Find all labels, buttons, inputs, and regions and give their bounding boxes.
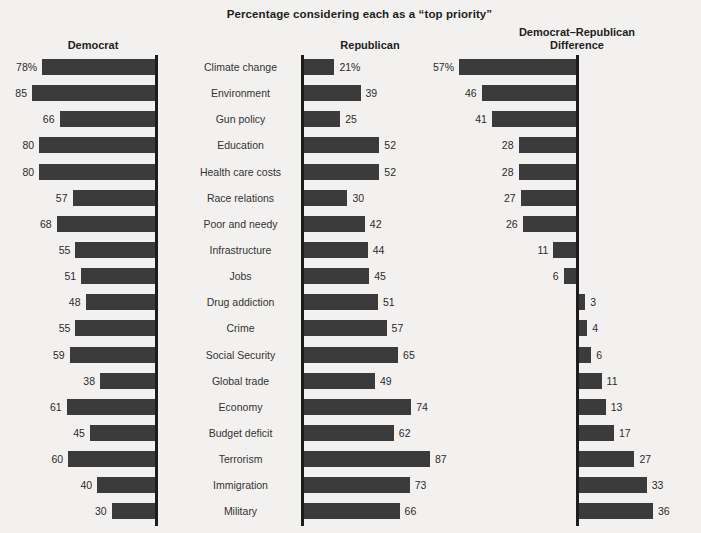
chart-row: 30Military6636 bbox=[0, 499, 701, 525]
republican-bar-group: 74 bbox=[304, 399, 428, 415]
democrat-bar bbox=[90, 425, 155, 441]
democrat-value-label: 59 bbox=[53, 349, 65, 361]
column-header-democrat: Democrat bbox=[30, 39, 156, 52]
difference-value-label: 27 bbox=[504, 192, 516, 204]
chart-title-text: Percentage considering each as a “top pr… bbox=[209, 8, 492, 20]
democrat-bar bbox=[39, 137, 155, 153]
republican-bar bbox=[304, 425, 394, 441]
difference-value-label: 3 bbox=[590, 296, 596, 308]
republican-bar bbox=[304, 59, 334, 75]
difference-bar-group: 46 bbox=[465, 85, 576, 101]
republican-value-label: 42 bbox=[370, 218, 382, 230]
republican-value-label: 21% bbox=[339, 61, 360, 73]
republican-bar-group: 87 bbox=[304, 451, 447, 467]
republican-bar-group: 49 bbox=[304, 373, 392, 389]
democrat-value-label: 78% bbox=[16, 61, 37, 73]
category-label: Immigration bbox=[180, 477, 301, 493]
difference-bar-group: 3 bbox=[579, 294, 596, 310]
category-label: Terrorism bbox=[180, 451, 301, 467]
democrat-value-label: 55 bbox=[59, 322, 71, 334]
democrat-value-label: 51 bbox=[65, 270, 77, 282]
republican-bar bbox=[304, 190, 347, 206]
difference-bar-group: 33 bbox=[579, 477, 663, 493]
difference-bar-group: 28 bbox=[502, 164, 576, 180]
column-header-republican: Republican bbox=[302, 39, 438, 52]
republican-bar bbox=[304, 503, 400, 519]
republican-value-label: 52 bbox=[384, 139, 396, 151]
democrat-bar bbox=[86, 294, 156, 310]
difference-bar bbox=[579, 294, 585, 310]
democrat-bar bbox=[70, 347, 155, 363]
difference-bar-group: 27 bbox=[579, 451, 651, 467]
democrat-value-label: 30 bbox=[95, 505, 107, 517]
democrat-bar-group: 51 bbox=[65, 268, 155, 284]
chart-row: 45Budget deficit6217 bbox=[0, 421, 701, 447]
difference-bar-group: 13 bbox=[579, 399, 622, 415]
category-label: Poor and needy bbox=[180, 216, 301, 232]
democrat-value-label: 85 bbox=[15, 87, 27, 99]
republican-bar bbox=[304, 451, 430, 467]
republican-value-label: 25 bbox=[345, 113, 357, 125]
democrat-value-label: 48 bbox=[69, 296, 81, 308]
category-label: Environment bbox=[180, 85, 301, 101]
chart-row: 38Global trade4911 bbox=[0, 369, 701, 395]
democrat-value-label: 68 bbox=[40, 218, 52, 230]
difference-bar bbox=[579, 425, 614, 441]
difference-value-label: 46 bbox=[465, 87, 477, 99]
difference-value-label: 36 bbox=[658, 505, 670, 517]
chart-rows: 78%Climate change21%57%85Environment3946… bbox=[0, 55, 701, 526]
democrat-bar-group: 40 bbox=[80, 477, 155, 493]
democrat-bar-group: 55 bbox=[59, 242, 155, 258]
difference-value-label: 28 bbox=[502, 166, 514, 178]
category-label: Education bbox=[180, 137, 301, 153]
category-label: Military bbox=[180, 503, 301, 519]
difference-value-label: 4 bbox=[592, 322, 598, 334]
democrat-bar bbox=[57, 216, 155, 232]
democrat-value-label: 55 bbox=[59, 244, 71, 256]
democrat-bar-group: 66 bbox=[43, 111, 155, 127]
republican-value-label: 52 bbox=[384, 166, 396, 178]
chart-canvas: Percentage considering each as a “top pr… bbox=[0, 0, 701, 533]
republican-bar-group: 25 bbox=[304, 111, 357, 127]
republican-bar-group: 42 bbox=[304, 216, 381, 232]
republican-bar-group: 73 bbox=[304, 477, 426, 493]
difference-value-label: 33 bbox=[652, 479, 664, 491]
democrat-bar-group: 85 bbox=[15, 85, 155, 101]
democrat-bar bbox=[81, 268, 155, 284]
democrat-value-label: 45 bbox=[73, 427, 85, 439]
republican-bar bbox=[304, 347, 398, 363]
chart-row: 59Social Security656 bbox=[0, 343, 701, 369]
democrat-bar-group: 59 bbox=[53, 347, 155, 363]
difference-bar-group: 57% bbox=[433, 59, 576, 75]
category-label: Race relations bbox=[180, 190, 301, 206]
democrat-bar bbox=[67, 399, 155, 415]
republican-bar bbox=[304, 242, 368, 258]
democrat-bar-group: 55 bbox=[59, 320, 155, 336]
republican-bar bbox=[304, 373, 375, 389]
difference-bar bbox=[482, 85, 576, 101]
chart-row: 55Crime574 bbox=[0, 316, 701, 342]
difference-value-label: 11 bbox=[538, 244, 549, 256]
democrat-value-label: 61 bbox=[50, 401, 62, 413]
difference-value-label: 27 bbox=[639, 453, 651, 465]
chart-row: 66Gun policy2541 bbox=[0, 107, 701, 133]
difference-bar bbox=[519, 137, 577, 153]
difference-value-label: 26 bbox=[506, 218, 518, 230]
category-label: Social Security bbox=[180, 347, 301, 363]
democrat-bar bbox=[75, 242, 155, 258]
difference-bar-group: 4 bbox=[579, 320, 598, 336]
difference-value-label: 13 bbox=[611, 401, 623, 413]
category-label: Climate change bbox=[180, 59, 301, 75]
republican-value-label: 39 bbox=[366, 87, 378, 99]
difference-bar bbox=[579, 373, 602, 389]
difference-bar bbox=[459, 59, 576, 75]
democrat-value-label: 38 bbox=[83, 375, 95, 387]
republican-bar bbox=[304, 216, 365, 232]
republican-value-label: 65 bbox=[403, 349, 415, 361]
difference-bar bbox=[492, 111, 576, 127]
chart-row: 60Terrorism8727 bbox=[0, 447, 701, 473]
difference-bar bbox=[579, 477, 647, 493]
democrat-bar-group: 80 bbox=[23, 137, 155, 153]
democrat-bar bbox=[60, 111, 156, 127]
democrat-bar-group: 38 bbox=[83, 373, 155, 389]
